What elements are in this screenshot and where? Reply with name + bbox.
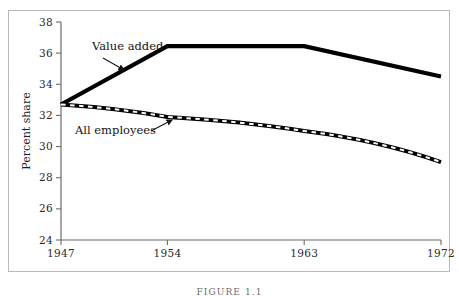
series-label-1: Value added [91,39,164,53]
y-axis-tick-label: 34 [39,78,53,90]
chart-canvas: 2426283032343638 1947195419631972 Percen… [0,0,459,296]
x-axis-group: 1947195419631972 [47,240,455,259]
y-axis-tick-label: 24 [39,234,53,246]
y-axis-group: 2426283032343638 [39,16,61,246]
series-label-2: All employees [74,123,156,137]
series-label-1-leader-arrow-icon [103,58,124,70]
y-axis-tick-label: 28 [39,171,53,183]
x-axis-tick-labels: 1947195419631972 [47,247,455,259]
y-axis-tick-label: 26 [39,202,53,214]
y-axis-tick-label: 36 [39,47,53,59]
y-axis-ticks [56,22,61,240]
x-axis-tick-label: 1947 [47,247,75,259]
chart-series-layer [61,46,441,162]
figure-caption: FIGURE 1.1 [0,287,459,296]
y-axis-tick-labels: 2426283032343638 [39,16,53,246]
figure-container: 2426283032343638 1947195419631972 Percen… [0,0,459,296]
x-axis-tick-label: 1972 [427,247,455,259]
y-axis-tick-label: 38 [39,16,53,28]
y-axis-title: Percent share [20,92,33,169]
x-axis-tick-label: 1954 [153,247,181,259]
x-axis-ticks [61,240,441,245]
x-axis-tick-label: 1963 [290,247,318,259]
series-line-1 [61,46,441,104]
y-axis-tick-label: 30 [39,140,53,152]
y-axis-tick-label: 32 [39,109,53,121]
